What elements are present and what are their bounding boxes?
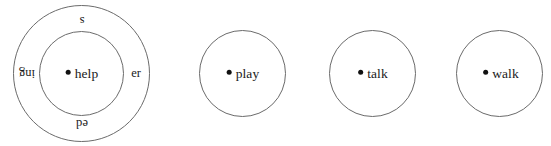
center-word-play: play [236, 66, 260, 81]
center-word-talk: talk [367, 66, 388, 81]
node-label-help: help [66, 66, 99, 81]
affix-help-ed: ed [76, 118, 88, 131]
center-word-help: help [75, 66, 99, 81]
word-circles-diagram: help s er ed ing play talk walk [0, 0, 551, 146]
node-dot-icon [483, 70, 488, 75]
affix-help-s: s [80, 15, 85, 28]
node-dot-icon [227, 70, 232, 75]
node-label-walk: walk [483, 66, 519, 81]
affix-help-ing: ing [19, 68, 35, 81]
node-dot-icon [66, 70, 71, 75]
node-dot-icon [358, 70, 363, 75]
node-label-play: play [227, 66, 260, 81]
center-word-walk: walk [492, 66, 519, 81]
affix-help-er: er [131, 67, 141, 80]
node-label-talk: talk [358, 66, 388, 81]
